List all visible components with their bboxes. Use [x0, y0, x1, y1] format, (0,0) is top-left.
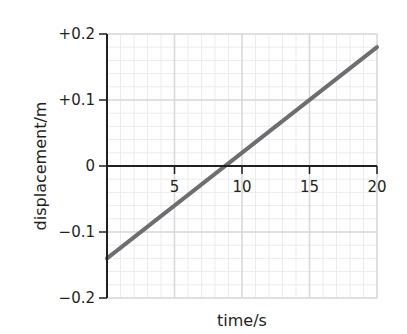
x-axis-title: time/s [217, 311, 267, 330]
x-tick-label: 10 [232, 178, 251, 196]
displacement-time-chart: +0.2+0.10−0.1−0.2 5101520 time/s displac… [0, 0, 407, 334]
y-tick-label: +0.1 [59, 91, 95, 109]
x-tick-label: 15 [300, 178, 319, 196]
x-tick-label: 20 [367, 178, 386, 196]
y-tick-label: 0 [85, 157, 95, 175]
x-axis-ticks: 5101520 [170, 166, 387, 196]
x-tick-label: 5 [170, 178, 180, 196]
y-tick-label: +0.2 [59, 25, 95, 43]
y-tick-label: −0.1 [59, 223, 95, 241]
y-axis-ticks: +0.2+0.10−0.1−0.2 [59, 25, 107, 307]
y-tick-label: −0.2 [59, 289, 95, 307]
y-axis-title: displacement/m [31, 102, 50, 231]
